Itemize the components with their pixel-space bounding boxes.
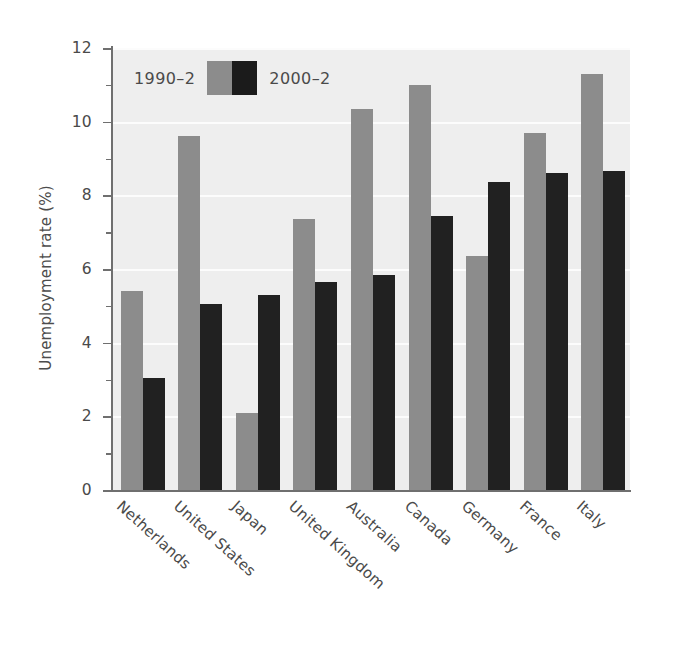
bar-chart-figure: 024681012 Unemployment rate (%) Netherla…: [0, 0, 675, 647]
x-label-japan: Japan: [228, 497, 272, 539]
x-label-france: France: [516, 497, 566, 545]
x-label-germany: Germany: [458, 497, 522, 557]
legend-label-2000: 2000–2: [269, 69, 330, 88]
x-axis-category-labels: NetherlandsUnited StatesJapanUnited King…: [0, 0, 675, 647]
x-label-italy: Italy: [573, 497, 610, 533]
chart-legend: 1990–2 2000–2: [134, 60, 331, 96]
x-label-canada: Canada: [401, 497, 456, 549]
legend-swatch-1990: [207, 61, 232, 95]
legend-swatch-pair: [207, 61, 257, 95]
x-label-united-kingdom: United Kingdom: [285, 497, 389, 593]
legend-swatch-2000: [232, 61, 257, 95]
legend-label-1990: 1990–2: [134, 69, 195, 88]
